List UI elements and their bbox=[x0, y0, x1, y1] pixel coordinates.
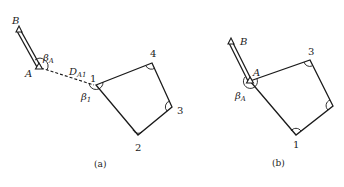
figure-a: B A βA DA1 1 β1 4 3 2 (a) bbox=[11, 15, 183, 169]
label-beta-A: βA bbox=[234, 90, 246, 103]
caption-a: (a) bbox=[94, 159, 106, 169]
label-B: B bbox=[239, 36, 247, 47]
label-point-3: 3 bbox=[177, 105, 183, 116]
figure-b: B A βA 3 1 (b) bbox=[228, 36, 333, 168]
label-A: A bbox=[252, 67, 260, 78]
label-point-3: 3 bbox=[308, 46, 314, 57]
traverse-diagram: B A βA DA1 1 β1 4 3 2 (a) B A βA 3 1 (b) bbox=[0, 0, 344, 187]
known-direction-BA bbox=[18, 31, 42, 68]
closed-traverse-polygon bbox=[96, 63, 172, 135]
label-A: A bbox=[24, 68, 32, 79]
caption-b: (b) bbox=[272, 158, 285, 168]
label-point-1: 1 bbox=[90, 73, 96, 84]
label-point-1: 1 bbox=[293, 139, 299, 150]
closed-traverse-polygon bbox=[250, 60, 333, 135]
label-point-2: 2 bbox=[135, 142, 141, 153]
label-beta-1: β1 bbox=[80, 91, 91, 104]
control-point-B-icon bbox=[16, 26, 22, 32]
control-point-B-icon bbox=[228, 38, 234, 44]
label-B: B bbox=[11, 15, 19, 26]
known-direction-BA bbox=[230, 43, 253, 82]
label-point-4: 4 bbox=[150, 48, 156, 59]
label-beta-A: βA bbox=[42, 52, 54, 65]
